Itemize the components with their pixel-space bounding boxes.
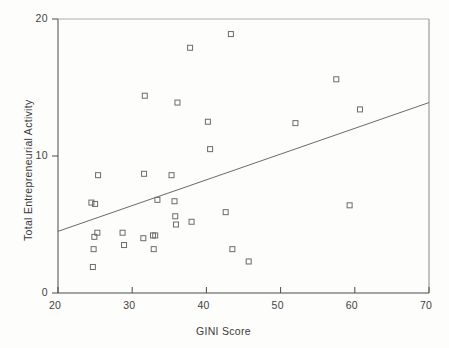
data-point-marker xyxy=(93,201,98,206)
y-tick-label: 20 xyxy=(36,12,48,24)
scatter-chart-figure: 203040506070 01020 GINI Score Total Entr… xyxy=(0,0,449,348)
data-point-marker xyxy=(246,259,251,264)
data-point-marker xyxy=(175,100,180,105)
data-point-marker xyxy=(334,77,339,82)
data-point-marker xyxy=(205,119,210,124)
data-point-marker xyxy=(189,219,194,224)
data-point-marker xyxy=(173,214,178,219)
data-point-marker xyxy=(142,93,147,98)
data-point-marker xyxy=(169,173,174,178)
data-point-marker xyxy=(208,147,213,152)
data-point-marker xyxy=(122,243,127,248)
y-axis-title: Total Entrepreneurial Activity xyxy=(22,100,34,241)
y-tick-label: 0 xyxy=(42,286,48,298)
x-tick-label: 30 xyxy=(123,299,135,311)
data-point-marker xyxy=(90,264,95,269)
data-point-marker xyxy=(230,247,235,252)
data-point-marker xyxy=(141,236,146,241)
plot-canvas xyxy=(0,0,449,348)
data-point-marker xyxy=(91,247,96,252)
x-tick-label: 40 xyxy=(197,299,209,311)
x-tick-label: 70 xyxy=(420,299,432,311)
data-point-marker xyxy=(293,121,298,126)
data-point-marker xyxy=(151,247,156,252)
data-point-marker xyxy=(188,45,193,50)
data-point-marker xyxy=(347,203,352,208)
x-tick-label: 50 xyxy=(272,299,284,311)
x-axis-ticks xyxy=(58,287,429,293)
x-axis-title: GINI Score xyxy=(196,325,251,337)
data-point-marker xyxy=(120,230,125,235)
x-tick-label: 60 xyxy=(346,299,358,311)
data-point-marker xyxy=(96,173,101,178)
data-point-marker xyxy=(228,32,233,37)
data-point-marker xyxy=(89,200,94,205)
regression-line xyxy=(58,103,429,232)
data-point-marker xyxy=(223,210,228,215)
trend-line xyxy=(58,103,429,232)
data-point-marker xyxy=(155,197,160,202)
x-tick-label: 20 xyxy=(49,299,61,311)
y-tick-label: 10 xyxy=(36,149,48,161)
data-point-marker xyxy=(173,222,178,227)
data-point-marker xyxy=(172,199,177,204)
data-point-marker xyxy=(357,107,362,112)
data-point-marker xyxy=(142,171,147,176)
y-axis-ticks xyxy=(52,19,58,293)
data-points xyxy=(89,32,363,270)
